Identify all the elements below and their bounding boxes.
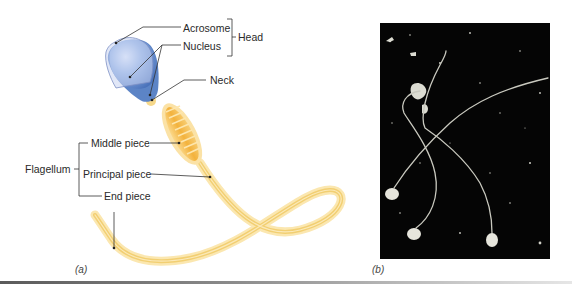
label-principal-piece: Principal piece bbox=[83, 169, 151, 180]
label-nucleus: Nucleus bbox=[183, 41, 221, 52]
micrograph-content bbox=[380, 23, 550, 259]
label-head: Head bbox=[238, 32, 263, 43]
label-middle-piece: Middle piece bbox=[91, 138, 150, 149]
sperm-micrograph bbox=[380, 23, 550, 259]
label-neck: Neck bbox=[210, 75, 234, 86]
label-flagellum: Flagellum bbox=[25, 164, 71, 175]
label-end-piece: End piece bbox=[104, 191, 151, 202]
caption-a: (a) bbox=[75, 265, 87, 275]
caption-b: (b) bbox=[372, 265, 384, 275]
sperm-structure-figure: Acrosome Nucleus Head Neck Middle piece … bbox=[0, 0, 572, 285]
label-acrosome: Acrosome bbox=[183, 23, 230, 34]
bottom-divider bbox=[0, 281, 572, 284]
